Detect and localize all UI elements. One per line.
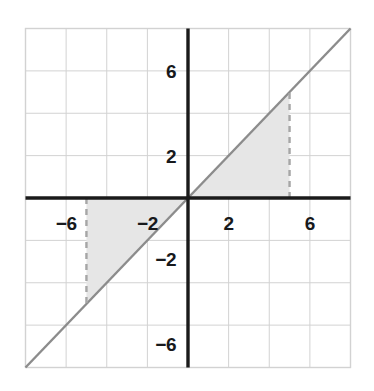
x-tick-label--6: −6 <box>56 214 77 233</box>
y-tick-label--2: −2 <box>155 250 176 269</box>
y-tick-label-2: 2 <box>166 147 176 166</box>
y-tick-label--6: −6 <box>155 335 176 354</box>
x-tick-label-2: 2 <box>224 214 234 233</box>
coordinate-plane-figure: −6−226−6−226 <box>0 0 374 391</box>
x-tick-label--2: −2 <box>137 214 158 233</box>
chart-svg <box>0 0 374 391</box>
y-tick-label-6: 6 <box>166 62 176 81</box>
x-tick-label-6: 6 <box>305 214 315 233</box>
